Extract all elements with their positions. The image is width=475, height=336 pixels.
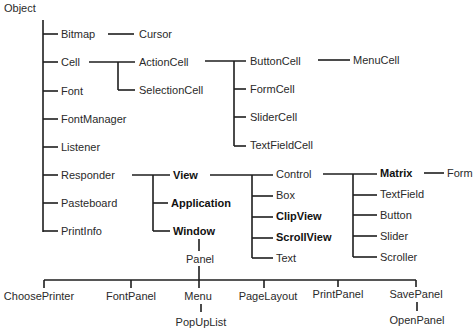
class-node-window: Window (173, 225, 215, 238)
class-node-slidercell: SliderCell (250, 111, 297, 124)
class-node-object: Object (4, 2, 36, 15)
class-node-fontmanager: FontManager (61, 113, 126, 126)
class-node-clipview: ClipView (276, 210, 322, 223)
class-node-responder: Responder (61, 169, 115, 182)
class-node-panel: Panel (186, 253, 214, 266)
class-node-popuplist: PopUpList (176, 316, 227, 329)
class-node-printpanel: PrintPanel (313, 288, 364, 301)
class-node-form: Form (447, 167, 473, 180)
class-node-actioncell: ActionCell (139, 56, 189, 69)
class-node-listener: Listener (61, 141, 100, 154)
class-node-textfield: TextField (380, 188, 424, 201)
class-node-view: View (173, 169, 198, 182)
class-node-textfieldcell: TextFieldCell (250, 139, 313, 152)
class-node-scrollview: ScrollView (276, 231, 331, 244)
class-node-matrix: Matrix (380, 167, 412, 180)
class-node-openpanel: OpenPanel (389, 314, 444, 327)
class-node-cell: Cell (61, 56, 80, 69)
class-node-box: Box (276, 189, 295, 202)
class-node-text: Text (276, 252, 296, 265)
class-node-application: Application (171, 197, 231, 210)
class-node-cursor: Cursor (139, 28, 172, 41)
class-node-pasteboard: Pasteboard (61, 197, 117, 210)
class-node-menu: Menu (184, 290, 212, 303)
class-node-savepanel: SavePanel (389, 288, 442, 301)
class-node-menucell: MenuCell (353, 54, 399, 67)
class-node-pagelayout: PageLayout (239, 290, 298, 303)
class-node-control: Control (276, 168, 311, 181)
class-node-scroller: Scroller (380, 251, 417, 264)
class-node-font: Font (61, 85, 83, 98)
class-node-button: Button (380, 209, 412, 222)
class-node-slider: Slider (380, 230, 408, 243)
class-node-bitmap: Bitmap (61, 28, 95, 41)
class-node-chooseprinter: ChoosePrinter (4, 290, 74, 303)
class-node-buttoncell: ButtonCell (250, 55, 301, 68)
class-node-printinfo: PrintInfo (61, 225, 102, 238)
class-node-formcell: FormCell (250, 83, 295, 96)
class-node-selectioncell: SelectionCell (139, 84, 203, 97)
class-node-fontpanel: FontPanel (106, 290, 156, 303)
class-hierarchy-diagram: ObjectBitmapCursorCellActionCellSelectio… (0, 0, 475, 336)
